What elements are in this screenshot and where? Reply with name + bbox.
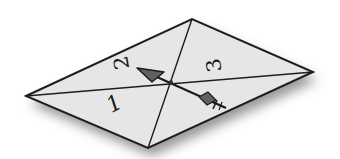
center-point bbox=[169, 80, 173, 84]
diagram-canvas: 1 2 3 bbox=[0, 0, 340, 159]
